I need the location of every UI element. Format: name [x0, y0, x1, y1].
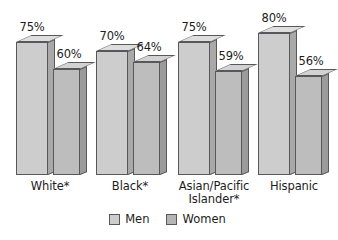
category-label-white: White* — [10, 180, 90, 193]
category-label-line1: Black* — [90, 180, 170, 193]
bar-group-asian-pacific-islander: 75% 59% — [176, 0, 250, 178]
chart-legend: Men Women — [0, 212, 335, 226]
bar-front-face — [258, 33, 290, 175]
bar-group-white: 75% 60% — [14, 0, 88, 178]
value-label-men-white: 75% — [9, 20, 55, 34]
bar-group-hispanic: 80% 56% — [256, 0, 330, 178]
bar-side-face — [322, 73, 329, 175]
bar-front-face — [178, 42, 210, 175]
bar-top-face — [53, 62, 96, 69]
bar-side-face — [160, 59, 167, 175]
bar-women-hispanic[interactable] — [295, 76, 322, 175]
value-label-women-black: 64% — [126, 40, 172, 54]
bar-side-face — [242, 68, 249, 175]
value-label-men-asian-pacific-islander: 75% — [171, 20, 217, 34]
legend-label-men: Men — [125, 212, 149, 226]
bar-men-hispanic[interactable] — [258, 33, 290, 175]
bar-front-face — [16, 42, 48, 175]
bar-front-face — [96, 51, 128, 175]
legend-item-men[interactable]: Men — [109, 212, 149, 226]
plot-area: 75% 60% 70% 64% — [0, 0, 335, 178]
category-label-line1: Hispanic — [254, 180, 334, 193]
category-label-hispanic: Hispanic — [254, 180, 334, 193]
bar-top-face — [16, 35, 64, 42]
bar-women-white[interactable] — [53, 69, 80, 175]
bar-men-white[interactable] — [16, 42, 48, 175]
bar-side-face — [80, 66, 87, 175]
bar-women-asian-pacific-islander[interactable] — [215, 71, 242, 175]
legend-swatch-women-icon — [166, 214, 177, 225]
bar-front-face — [295, 76, 322, 175]
bar-top-face — [258, 26, 306, 33]
legend-label-women: Women — [182, 212, 225, 226]
legend-item-women[interactable]: Women — [166, 212, 225, 226]
legend-swatch-men-icon — [109, 214, 120, 225]
category-label-line1: White* — [10, 180, 90, 193]
category-label-asian-pacific-islander: Asian/Pacific Islander* — [170, 180, 258, 206]
bar-front-face — [133, 62, 160, 175]
category-label-line2: Islander* — [170, 193, 258, 206]
bar-top-face — [178, 35, 226, 42]
bar-men-black[interactable] — [96, 51, 128, 175]
value-label-women-white: 60% — [46, 47, 92, 61]
value-label-men-hispanic: 80% — [251, 11, 297, 25]
value-label-women-hispanic: 56% — [288, 54, 334, 68]
value-label-women-asian-pacific-islander: 59% — [208, 49, 254, 63]
bar-top-face — [215, 64, 258, 71]
bar-front-face — [53, 69, 80, 175]
bar-men-asian-pacific-islander[interactable] — [178, 42, 210, 175]
bar-front-face — [215, 71, 242, 175]
bar-group-black: 70% 64% — [94, 0, 168, 178]
bar-top-face — [295, 69, 338, 76]
category-label-black: Black* — [90, 180, 170, 193]
bar-top-face — [133, 55, 176, 62]
bar-women-black[interactable] — [133, 62, 160, 175]
